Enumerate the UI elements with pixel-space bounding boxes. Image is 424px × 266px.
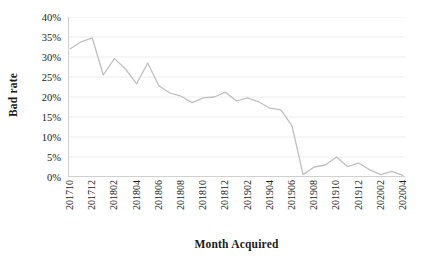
x-axis-tick-labels: 2017102017122018022018042018062018082018… — [68, 180, 405, 238]
y-axis-title-label: Bad rate — [7, 73, 19, 117]
x-tick-label-text: 202002 — [376, 180, 386, 210]
y-tick-label: 35% — [42, 32, 61, 43]
x-axis-title-label: Month Acquired — [194, 238, 278, 250]
x-tick-label-text: 201902 — [243, 180, 253, 210]
plot-area — [68, 17, 405, 177]
x-tick-label: 201906 — [286, 180, 298, 236]
x-tick-label-text: 201806 — [154, 180, 164, 210]
x-tick-label: 202004 — [397, 180, 409, 236]
x-tick-label-text: 202004 — [398, 180, 408, 210]
x-tick-label-text: 201810 — [198, 180, 208, 210]
x-tick-label: 201710 — [64, 180, 76, 236]
gridlines — [68, 17, 405, 177]
x-tick-label-text: 201710 — [65, 180, 75, 210]
y-tick-label: 0% — [47, 172, 61, 183]
y-tick-label: 5% — [47, 152, 61, 163]
y-tick-label: 30% — [42, 52, 61, 63]
x-tick-label: 201902 — [242, 180, 254, 236]
x-tick-label: 201712 — [86, 180, 98, 236]
x-axis-title: Month Acquired — [68, 238, 405, 250]
x-tick-label-text: 201808 — [176, 180, 186, 210]
x-tick-label: 201912 — [353, 180, 365, 236]
y-tick-label: 20% — [42, 92, 61, 103]
x-tick-label: 201810 — [197, 180, 209, 236]
y-tick-label: 25% — [42, 72, 61, 83]
data-series-line — [70, 38, 403, 176]
y-axis-tick-labels: 40%35%30%25%20%15%10%5%0% — [26, 11, 64, 183]
y-tick-label: 40% — [42, 12, 61, 23]
x-tick-label: 201910 — [330, 180, 342, 236]
plot-svg — [68, 17, 405, 177]
x-tick-label: 201808 — [175, 180, 187, 236]
x-tick-label-text: 201908 — [309, 180, 319, 210]
x-tick-label: 201812 — [219, 180, 231, 236]
x-tick-label-text: 201912 — [354, 180, 364, 210]
x-tick-label-text: 201804 — [132, 180, 142, 210]
x-tick-label: 201908 — [308, 180, 320, 236]
x-tick-label-text: 201802 — [109, 180, 119, 210]
y-axis-title: Bad rate — [0, 0, 26, 190]
x-tick-label: 201806 — [153, 180, 165, 236]
x-tick-label-text: 201904 — [265, 180, 275, 210]
x-tick-label: 201804 — [131, 180, 143, 236]
x-tick-label: 202002 — [375, 180, 387, 236]
x-tick-label: 201904 — [264, 180, 276, 236]
x-tick-label-text: 201712 — [87, 180, 97, 210]
x-tick-label: 201802 — [108, 180, 120, 236]
x-tick-label-text: 201910 — [331, 180, 341, 210]
y-tick-label: 10% — [42, 132, 61, 143]
x-tick-label-text: 201906 — [287, 180, 297, 210]
bad-rate-line-chart: Bad rate 40%35%30%25%20%15%10%5%0% 20171… — [0, 0, 424, 266]
y-tick-label: 15% — [42, 112, 61, 123]
x-tick-label-text: 201812 — [220, 180, 230, 210]
